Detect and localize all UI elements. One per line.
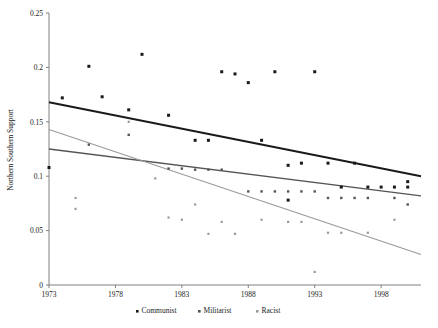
data-point [327,162,330,165]
data-point [194,168,196,170]
y-axis-tick-label: 0.2 [34,63,44,72]
y-axis-tick-label: 0.25 [30,9,43,18]
data-point [273,70,276,73]
legend-swatch-icon [256,310,259,313]
data-point [287,221,289,223]
data-point [393,197,395,199]
data-point [167,216,169,218]
data-point [61,96,64,99]
legend-swatch-icon [136,310,139,313]
data-point [74,197,76,199]
data-point [167,114,170,117]
data-point [406,186,409,189]
data-point [353,162,356,165]
data-point [313,70,316,73]
data-point [181,167,183,169]
data-point [221,168,223,170]
data-point [141,53,144,56]
data-point [367,197,369,199]
data-point [287,199,290,202]
data-point [260,139,263,142]
data-point [393,219,395,221]
data-point [207,233,209,235]
legend-item-communist[interactable]: Communist [136,306,177,315]
data-point [247,81,250,84]
data-point [327,232,329,234]
data-point [234,72,237,75]
data-point [314,271,316,273]
x-axis-tick-label: 1983 [174,290,189,299]
y-axis-tick-label: 0.1 [34,172,44,181]
data-point [287,190,289,192]
legend-item-militarist[interactable]: Militarist [198,306,232,315]
data-point [366,186,369,189]
data-point [393,186,396,189]
legend-swatch-icon [198,310,201,313]
x-axis-tick-label: 1978 [108,290,123,299]
data-point [87,65,90,68]
data-point [128,134,130,136]
chart-background [0,0,438,328]
data-point [274,190,276,192]
data-point [407,203,409,205]
data-point [127,108,130,111]
data-point [194,203,196,205]
legend-label: Militarist [204,306,233,315]
data-point [101,95,104,98]
y-axis-tick-label: 0.05 [30,226,43,235]
x-axis-tick-label: 1998 [374,290,389,299]
data-point [300,190,302,192]
data-point [48,166,51,169]
data-point [128,121,130,123]
data-point [380,186,383,189]
legend-label: Racist [262,306,282,315]
data-point [353,197,355,199]
data-point [207,139,210,142]
data-point [340,232,342,234]
chart-canvas: 00.050.10.150.20.25 19731978198319881993… [0,0,438,328]
data-point [340,197,342,199]
y-axis-tick-label: 0.15 [30,118,43,127]
data-point [181,219,183,221]
data-point [194,139,197,142]
x-axis-tick-label: 1973 [42,290,57,299]
data-point [221,221,223,223]
data-point [260,190,262,192]
x-axis-tick-label: 1993 [307,290,322,299]
data-point [367,232,369,234]
data-point [287,164,290,167]
data-point [88,143,90,145]
legend-label: Communist [142,306,178,315]
data-point [234,233,236,235]
data-point [247,190,249,192]
data-point [167,167,169,169]
data-point [74,208,76,210]
data-point [220,70,223,73]
data-point [327,197,329,199]
y-axis-tick-label: 0 [39,281,43,290]
data-point [260,219,262,221]
data-point [300,162,303,165]
data-point [300,221,302,223]
scatter-chart: 00.050.10.150.20.25 19731978198319881993… [0,0,438,328]
data-point [314,190,316,192]
data-point [207,168,209,170]
data-point [406,180,409,183]
y-axis-title: Northern Southern Support [6,108,15,191]
x-axis-tick-label: 1988 [241,290,256,299]
data-point [340,186,343,189]
data-point [154,177,156,179]
